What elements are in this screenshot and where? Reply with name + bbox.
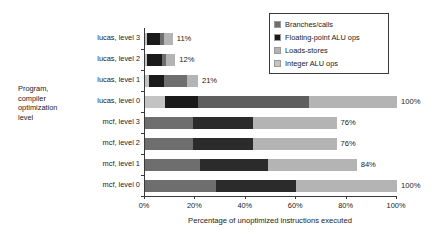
x-axis-tick-label: 20% bbox=[187, 201, 202, 210]
bar-value-label: 100% bbox=[401, 96, 420, 108]
stacked-bar bbox=[145, 75, 198, 87]
stacked-bar bbox=[145, 54, 175, 66]
bar-row: mcf, level 184% bbox=[144, 154, 396, 175]
stacked-bar bbox=[145, 138, 337, 150]
bar-category-label: mcf, level 1 bbox=[76, 159, 140, 168]
chart-legend: Branches/callsFloating-point ALU opsLoad… bbox=[269, 13, 389, 74]
bar-value-label: 12% bbox=[179, 54, 194, 66]
bar-segment bbox=[309, 96, 397, 108]
bar-value-label: 84% bbox=[361, 159, 376, 171]
bar-segment bbox=[296, 180, 397, 192]
bar-segment bbox=[216, 180, 297, 192]
bar-row: mcf, level 276% bbox=[144, 133, 396, 154]
legend-label: Floating-point ALU ops bbox=[285, 33, 360, 42]
bar-row: mcf, level 0100% bbox=[144, 175, 396, 196]
x-axis-tick-label: 80% bbox=[338, 201, 353, 210]
legend-swatch-icon bbox=[274, 34, 281, 41]
bar-segment bbox=[187, 75, 198, 87]
x-axis-tick bbox=[144, 196, 145, 199]
legend-items: Branches/callsFloating-point ALU opsLoad… bbox=[274, 18, 383, 69]
bar-segment bbox=[253, 138, 336, 150]
legend-item: Loads-stores bbox=[274, 44, 383, 56]
stacked-bar bbox=[145, 159, 357, 171]
x-axis-tick-label: 40% bbox=[237, 201, 252, 210]
bar-value-label: 76% bbox=[341, 138, 356, 150]
bar-segment bbox=[145, 159, 200, 171]
legend-label: Loads-stores bbox=[285, 46, 328, 55]
bar-segment bbox=[145, 96, 165, 108]
legend-item: Floating-point ALU ops bbox=[274, 31, 383, 43]
bar-segment bbox=[200, 159, 268, 171]
x-axis-tick bbox=[396, 196, 397, 199]
x-axis-tick bbox=[245, 196, 246, 199]
legend-swatch-icon bbox=[274, 47, 281, 54]
legend-label: Branches/calls bbox=[285, 20, 333, 29]
bar-segment bbox=[198, 96, 309, 108]
bar-category-label: lucas, level 1 bbox=[76, 75, 140, 84]
bar-row: lucas, level 0100% bbox=[144, 91, 396, 112]
legend-item: Integer ALU ops bbox=[274, 57, 383, 69]
x-axis-tick-label: 100% bbox=[387, 201, 406, 210]
bar-segment bbox=[145, 117, 193, 129]
bar-segment bbox=[164, 75, 187, 87]
bar-segment bbox=[145, 180, 216, 192]
bar-category-label: lucas, level 3 bbox=[76, 33, 140, 42]
bar-segment bbox=[166, 54, 175, 66]
chart-figure: Program, compiler optimization level luc… bbox=[0, 0, 436, 241]
bar-value-label: 21% bbox=[202, 75, 217, 87]
x-axis-tick-label: 60% bbox=[288, 201, 303, 210]
bar-category-label: mcf, level 0 bbox=[76, 180, 140, 189]
bar-segment bbox=[253, 117, 336, 129]
stacked-bar bbox=[145, 117, 337, 129]
x-axis-tick-label: 0% bbox=[139, 201, 150, 210]
bar-category-label: lucas, level 0 bbox=[76, 96, 140, 105]
stacked-bar bbox=[145, 96, 397, 108]
x-axis-tick bbox=[295, 196, 296, 199]
bar-segment bbox=[193, 138, 253, 150]
stacked-bar bbox=[145, 180, 397, 192]
bar-category-label: mcf, level 3 bbox=[76, 117, 140, 126]
x-axis-title: Percentage of unoptimized instructions e… bbox=[144, 216, 396, 225]
bar-category-label: lucas, level 2 bbox=[76, 54, 140, 63]
stacked-bar bbox=[145, 33, 173, 45]
legend-swatch-icon bbox=[274, 60, 281, 67]
bar-value-label: 11% bbox=[177, 33, 192, 45]
bar-segment bbox=[268, 159, 356, 171]
legend-swatch-icon bbox=[274, 21, 281, 28]
bar-segment bbox=[164, 33, 173, 45]
bar-segment bbox=[149, 75, 164, 87]
bar-row: mcf, level 376% bbox=[144, 112, 396, 133]
bar-segment bbox=[147, 54, 162, 66]
bar-value-label: 100% bbox=[401, 180, 420, 192]
x-axis-tick bbox=[346, 196, 347, 199]
bar-category-label: mcf, level 2 bbox=[76, 138, 140, 147]
bar-value-label: 76% bbox=[341, 117, 356, 129]
x-axis-line bbox=[144, 196, 396, 197]
bar-segment bbox=[147, 33, 160, 45]
bar-segment bbox=[145, 138, 193, 150]
legend-label: Integer ALU ops bbox=[285, 59, 338, 68]
bar-segment bbox=[193, 117, 253, 129]
x-axis-tick bbox=[194, 196, 195, 199]
y-axis-title: Program, compiler optimization level bbox=[18, 84, 80, 122]
bar-segment bbox=[165, 96, 198, 108]
legend-item: Branches/calls bbox=[274, 18, 383, 30]
